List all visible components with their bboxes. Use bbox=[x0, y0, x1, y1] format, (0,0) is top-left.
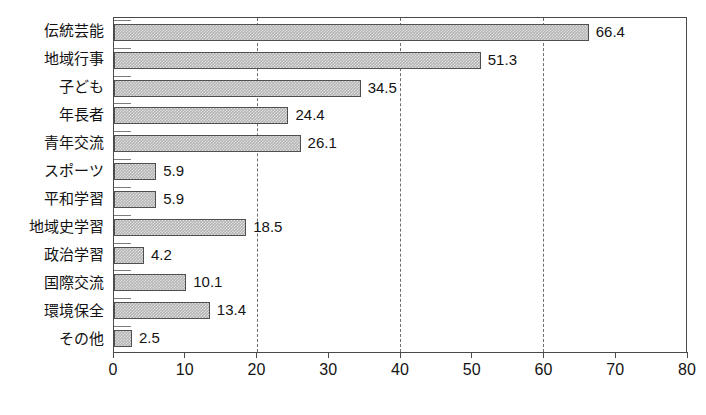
x-axis-tick bbox=[471, 352, 472, 358]
category-label: 年長者 bbox=[0, 101, 110, 129]
axis-tick-stub bbox=[114, 131, 131, 132]
x-axis-tick-label: 20 bbox=[248, 360, 266, 380]
category-label: 平和学習 bbox=[0, 185, 110, 213]
bar-value-label: 24.4 bbox=[295, 106, 324, 124]
axis-tick-stub bbox=[114, 270, 131, 271]
category-label: 政治学習 bbox=[0, 241, 110, 269]
bar-row: 2.5 bbox=[114, 324, 686, 352]
axis-tick-stub bbox=[114, 215, 131, 216]
bar-row: 5.9 bbox=[114, 157, 686, 185]
x-axis-tick bbox=[113, 352, 114, 358]
x-axis-tick-label: 80 bbox=[678, 360, 696, 380]
x-axis-tick-label: 50 bbox=[463, 360, 481, 380]
axis-tick-stub bbox=[114, 103, 131, 104]
bar bbox=[114, 274, 186, 291]
bar bbox=[114, 107, 288, 124]
category-label: 国際交流 bbox=[0, 269, 110, 297]
bar-row: 66.4 bbox=[114, 18, 686, 46]
bar-value-label: 2.5 bbox=[139, 329, 160, 347]
chart-title bbox=[0, 0, 706, 5]
category-label: その他 bbox=[0, 325, 110, 353]
bar bbox=[114, 80, 361, 97]
bar-value-label: 18.5 bbox=[253, 218, 282, 236]
bar-row: 4.2 bbox=[114, 241, 686, 269]
bar bbox=[114, 24, 589, 41]
axis-tick-stub bbox=[114, 48, 131, 49]
bar-value-label: 34.5 bbox=[368, 79, 397, 97]
bar bbox=[114, 330, 132, 347]
bar-value-label: 66.4 bbox=[596, 23, 625, 41]
bar-value-label: 51.3 bbox=[488, 51, 517, 69]
bar-row: 24.4 bbox=[114, 101, 686, 129]
bar-value-label: 26.1 bbox=[308, 134, 337, 152]
bar bbox=[114, 135, 301, 152]
plot-area: 66.451.334.524.426.15.95.918.54.210.113.… bbox=[113, 17, 687, 353]
bar bbox=[114, 219, 246, 236]
x-axis-tick bbox=[543, 352, 544, 358]
plot-inner: 66.451.334.524.426.15.95.918.54.210.113.… bbox=[114, 18, 686, 352]
axis-tick-stub bbox=[114, 76, 131, 77]
bar-value-label: 10.1 bbox=[193, 273, 222, 291]
bar bbox=[114, 302, 210, 319]
x-axis-tick bbox=[615, 352, 616, 358]
bar-row: 5.9 bbox=[114, 185, 686, 213]
bar-row: 10.1 bbox=[114, 268, 686, 296]
axis-tick-stub bbox=[114, 159, 131, 160]
bar-row: 34.5 bbox=[114, 74, 686, 102]
bar bbox=[114, 52, 481, 69]
axis-tick-stub bbox=[114, 243, 131, 244]
x-axis-tick-label: 30 bbox=[319, 360, 337, 380]
category-label: 地域行事 bbox=[0, 45, 110, 73]
category-label: 環境保全 bbox=[0, 297, 110, 325]
x-axis-tick bbox=[328, 352, 329, 358]
category-label: 地域史学習 bbox=[0, 213, 110, 241]
category-label: 子ども bbox=[0, 73, 110, 101]
x-axis-tick bbox=[256, 352, 257, 358]
bar-value-label: 13.4 bbox=[217, 301, 246, 319]
bar-row: 51.3 bbox=[114, 46, 686, 74]
category-label: スポーツ bbox=[0, 157, 110, 185]
x-axis-tick-label: 0 bbox=[109, 360, 118, 380]
x-axis-tick-label: 60 bbox=[535, 360, 553, 380]
x-axis-tick bbox=[687, 352, 688, 358]
axis-tick-stub bbox=[114, 298, 131, 299]
x-axis-tick-label: 40 bbox=[391, 360, 409, 380]
x-axis-tick bbox=[400, 352, 401, 358]
bar-value-label: 5.9 bbox=[163, 190, 184, 208]
bar-row: 18.5 bbox=[114, 213, 686, 241]
axis-tick-stub bbox=[114, 187, 131, 188]
bar bbox=[114, 247, 144, 264]
bar bbox=[114, 163, 156, 180]
category-label: 青年交流 bbox=[0, 129, 110, 157]
category-label: 伝統芸能 bbox=[0, 17, 110, 45]
bar-row: 26.1 bbox=[114, 129, 686, 157]
bars-layer: 66.451.334.524.426.15.95.918.54.210.113.… bbox=[114, 18, 686, 352]
x-axis-tick-label: 70 bbox=[606, 360, 624, 380]
bar-chart: 伝統芸能地域行事子ども年長者青年交流スポーツ平和学習地域史学習政治学習国際交流環… bbox=[0, 0, 706, 415]
bar bbox=[114, 191, 156, 208]
x-axis: 01020304050607080 bbox=[113, 352, 687, 402]
bar-row: 13.4 bbox=[114, 296, 686, 324]
bar-value-label: 4.2 bbox=[151, 246, 172, 264]
category-axis: 伝統芸能地域行事子ども年長者青年交流スポーツ平和学習地域史学習政治学習国際交流環… bbox=[0, 17, 110, 353]
bar-value-label: 5.9 bbox=[163, 162, 184, 180]
axis-tick-stub bbox=[114, 326, 131, 327]
x-axis-tick-label: 10 bbox=[176, 360, 194, 380]
axis-tick-stub bbox=[114, 20, 131, 21]
x-axis-tick bbox=[184, 352, 185, 358]
